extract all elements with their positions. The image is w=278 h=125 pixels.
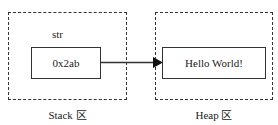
pointer-arrow: [0, 0, 278, 125]
